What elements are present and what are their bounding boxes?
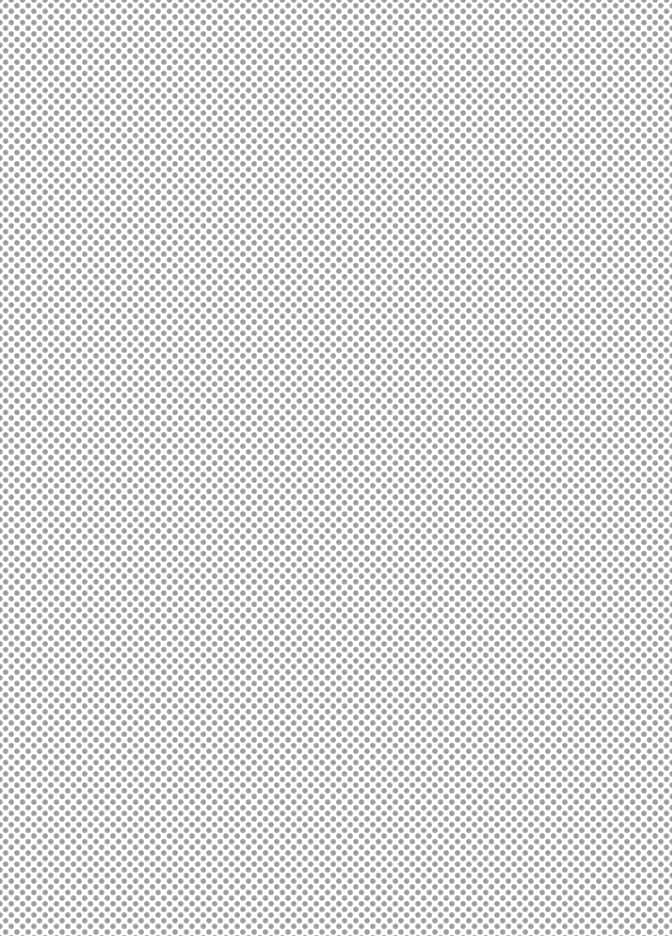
dot-pattern-background bbox=[0, 0, 672, 936]
